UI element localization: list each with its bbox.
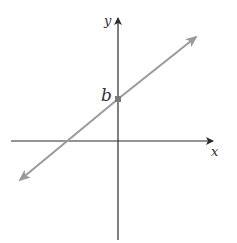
diagram-svg: y x b	[0, 0, 237, 243]
y-intercept-point	[115, 96, 121, 102]
coordinate-plane-diagram: y x b	[0, 0, 237, 243]
intercept-label: b	[101, 85, 112, 105]
graph-line-lower	[20, 99, 118, 180]
graph-line	[118, 37, 196, 99]
x-axis-label: x	[211, 144, 219, 159]
y-axis-label: y	[103, 13, 112, 28]
